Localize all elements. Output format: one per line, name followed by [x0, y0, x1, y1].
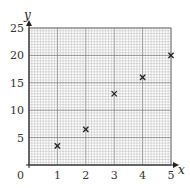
- x-axis-label: x: [178, 163, 185, 177]
- y-tick-label: 5: [17, 132, 24, 145]
- origin-label: 0: [17, 169, 24, 182]
- x-tick-label: 2: [82, 169, 89, 182]
- y-axis-label: y: [23, 8, 31, 22]
- scatter-chart: 12345510152025 x y 0: [0, 0, 190, 188]
- y-tick-label: 10: [10, 104, 24, 117]
- x-tick-label: 3: [111, 169, 118, 182]
- x-tick-label: 1: [54, 169, 61, 182]
- y-tick-label: 20: [10, 49, 24, 62]
- y-tick-label: 15: [10, 77, 24, 90]
- x-tick-label: 5: [168, 169, 175, 182]
- y-tick-label: 25: [10, 22, 24, 35]
- graph-paper-grid: [29, 28, 171, 165]
- x-tick-label: 4: [139, 169, 146, 182]
